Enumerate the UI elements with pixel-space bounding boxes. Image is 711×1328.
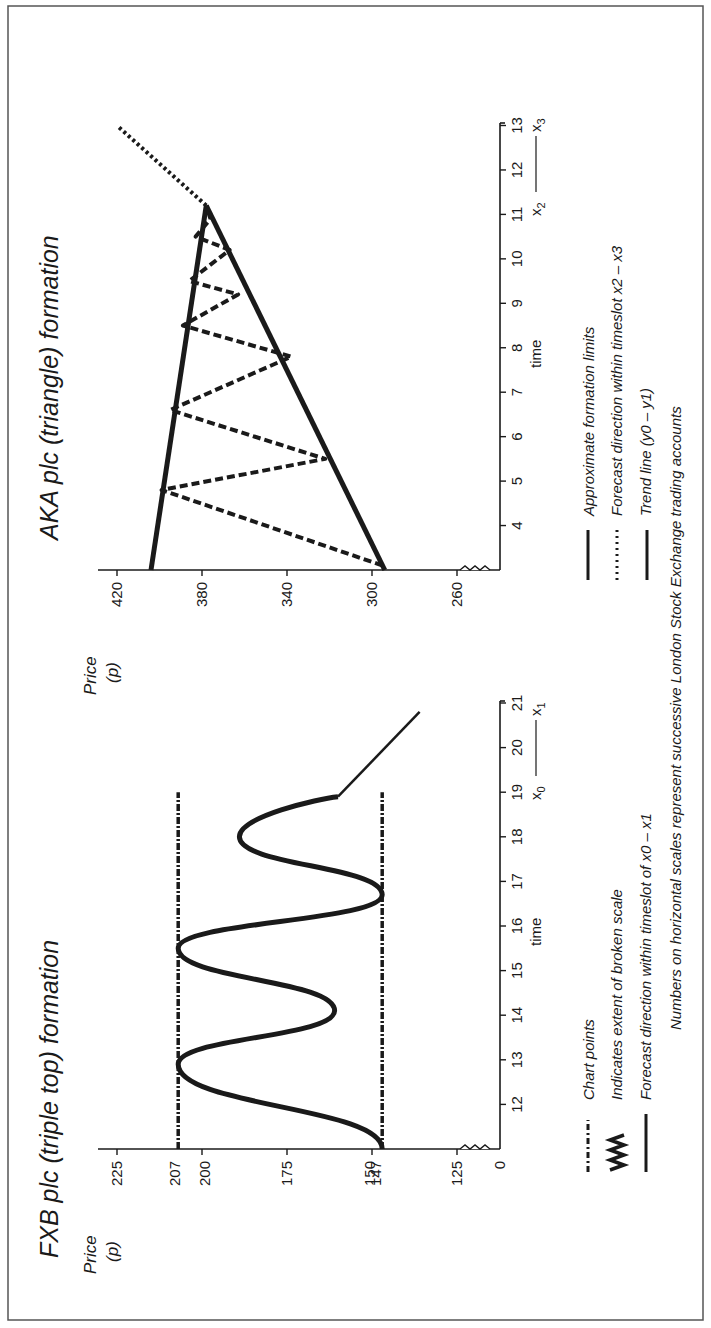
aka-price-tick-label: 300 — [363, 582, 380, 607]
fxb-series-line: Forecast continuation — [338, 712, 420, 797]
fxb-legend: Chart points Indicates extent of broken … — [580, 813, 654, 1172]
aka-xlabel: time — [527, 340, 544, 368]
fxb-ylabel-unit: (p) — [103, 1241, 122, 1262]
svg-text:x2: x2 — [527, 202, 547, 216]
svg-text:x3: x3 — [527, 118, 547, 132]
fxb-price-tick-label: 147 — [367, 1161, 384, 1186]
fxb-time-tick-label: 17 — [508, 873, 525, 890]
legend-forecast-x2-x3-label: Forecast direction within timeslot x2 – … — [608, 245, 625, 516]
legend-broken-scale-zigzag-icon — [610, 1135, 624, 1170]
aka-plot: Approximate formation limits (upper)Tren… — [117, 126, 385, 571]
aka-time-tick-label: 12 — [508, 162, 525, 179]
aka-time-tick-label: 11 — [508, 207, 525, 223]
aka-title: AKA plc (triangle) formation — [35, 235, 63, 542]
fxb-price-tick-label: 207 — [166, 1161, 183, 1186]
aka-price-tick-label: 420 — [108, 582, 125, 607]
aka-time-tick-label: 8 — [508, 344, 525, 352]
fxb-time-tick-label: 12 — [508, 1096, 525, 1113]
fxb-time-tick-label: 13 — [508, 1051, 525, 1068]
fxb-price-tick-label: 0 — [491, 1161, 508, 1169]
fxb-time-tick-label: 16 — [508, 918, 525, 935]
fxb-xlabel: time — [527, 918, 544, 946]
aka-range-label: x2 x3 — [527, 118, 547, 216]
fxb-time-tick-label: 20 — [508, 739, 525, 756]
fxb-price-tick-label: 225 — [108, 1161, 125, 1186]
broken-scale-zigzag-icon — [460, 1145, 490, 1149]
fxb-price-tick-label: 200 — [196, 1161, 213, 1186]
footnote: Numbers on horizontal scales represent s… — [667, 406, 684, 1030]
aka-ylabel: Price — [81, 656, 100, 695]
aka-series-line: Price swings — [162, 206, 383, 566]
fxb-chart: FXB plc (triple top) formation Price (p)… — [35, 695, 547, 1274]
aka-price-tick-label: 340 — [278, 582, 295, 607]
fxb-time-tick-label: 15 — [508, 962, 525, 979]
fxb-series-line: Forecast direction within timeslot of x0… — [178, 797, 382, 1149]
fxb-plot: Forecast direction within timeslot of x0… — [178, 712, 419, 1149]
aka-price-tick-label: 260 — [448, 582, 465, 607]
aka-chart: AKA plc (triangle) formation Price (p) 4… — [35, 117, 547, 695]
aka-time-tick-label: 5 — [508, 477, 525, 485]
legend-forecast-x0-x1-label: Forecast direction within timeslot of x0… — [637, 813, 654, 1100]
fxb-range-label: x0 x1 — [527, 702, 547, 800]
fxb-price-tick-label: 175 — [278, 1161, 295, 1186]
aka-time-tick-label: 10 — [508, 251, 525, 268]
fxb-title: FXB plc (triple top) formation — [35, 940, 63, 1258]
legend-broken-scale-label: Indicates extent of broken scale — [608, 889, 625, 1100]
figure: FXB plc (triple top) formation Price (p)… — [0, 0, 711, 1328]
aka-legend: Approximate formation limits Forecast di… — [580, 245, 654, 580]
legend-chart-points-label: Chart points — [580, 1019, 597, 1100]
fxb-time-tick-label: 19 — [508, 784, 525, 801]
aka-time-tick-label: 6 — [508, 432, 525, 440]
fxb-price-tick-label: 125 — [448, 1161, 465, 1186]
aka-series-line: Forecast direction within timeslot x2 - … — [117, 126, 206, 206]
aka-time-tick-label: 13 — [508, 117, 525, 134]
fxb-time-tick-label: 21 — [508, 695, 525, 712]
aka-price-tick-label: 380 — [193, 582, 210, 607]
aka-time-tick-label: 7 — [508, 388, 525, 396]
legend-trend-line-label: Trend line (y0 – y1) — [637, 388, 654, 516]
aka-series-line: Approximate formation limits (upper) — [151, 206, 206, 570]
fxb-time-tick-label: 14 — [508, 1007, 525, 1024]
aka-time-tick-label: 4 — [508, 521, 525, 529]
legend-formation-limits-label: Approximate formation limits — [580, 326, 597, 517]
aka-axes: 42038034030026045678910111213 — [98, 117, 525, 607]
fxb-ylabel: Price — [81, 1235, 100, 1274]
svg-text:x1: x1 — [527, 702, 547, 716]
svg-text:x0: x0 — [527, 786, 547, 800]
broken-scale-zigzag-icon — [460, 566, 490, 570]
fxb-time-tick-label: 18 — [508, 828, 525, 845]
aka-time-tick-label: 9 — [508, 299, 525, 307]
aka-ylabel-unit: (p) — [103, 662, 122, 683]
